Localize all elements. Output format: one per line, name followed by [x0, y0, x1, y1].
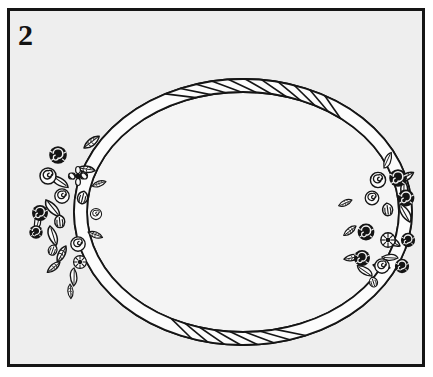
rose-icon: [398, 190, 415, 207]
rose-icon: [74, 256, 87, 269]
rose-icon: [389, 169, 407, 187]
rose-icon: [29, 225, 42, 238]
rose-icon: [358, 224, 375, 241]
figure-root: 2: [0, 0, 433, 377]
rose-icon: [90, 208, 101, 219]
rose-icon: [49, 146, 67, 164]
rose-icon: [55, 189, 69, 203]
rose-icon: [71, 237, 85, 251]
rose-icon: [381, 233, 395, 247]
rose-icon: [365, 191, 379, 205]
rose-icon: [370, 172, 385, 187]
illustration-content: [10, 11, 422, 364]
rose-icon: [32, 205, 48, 221]
rose-icon: [375, 259, 389, 273]
rose-icon: [354, 250, 370, 266]
rose-icon: [401, 233, 415, 247]
rose-icon: [40, 168, 56, 184]
figure-illustration: [0, 0, 433, 377]
figure-number-label: 2: [18, 20, 33, 50]
rose-icon: [395, 259, 409, 273]
